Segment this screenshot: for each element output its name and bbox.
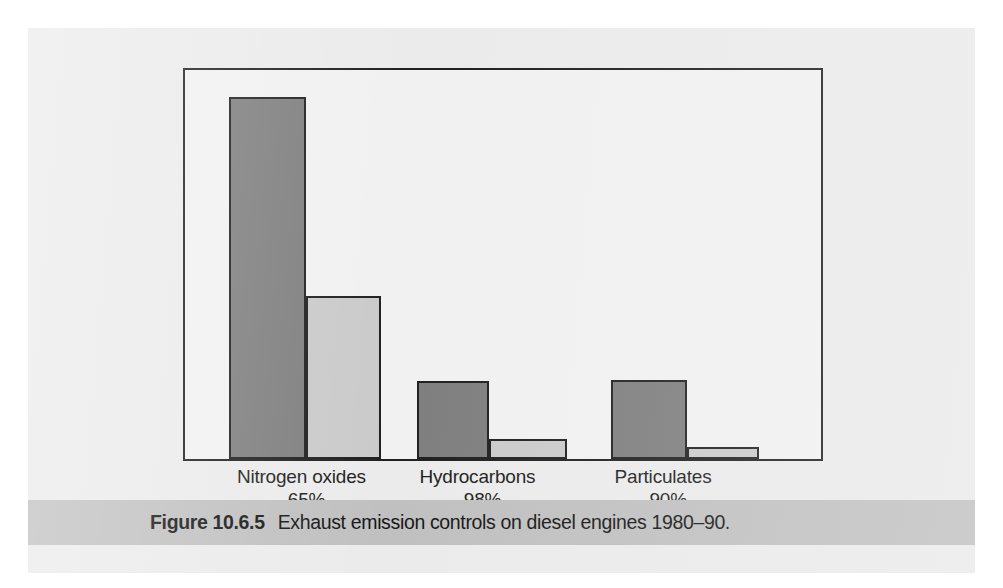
bar-hydrocarbons-1980 (417, 381, 489, 459)
bar-hydrocarbons-1990 (489, 439, 567, 459)
figure-caption: Figure 10.6.5Exhaust emission controls o… (150, 511, 730, 534)
bar-nitrogen-oxides-1980 (229, 97, 307, 459)
figure-caption-band: Figure 10.6.5Exhaust emission controls o… (28, 500, 975, 545)
bar-chart-plot-area (183, 68, 823, 461)
figure-root: Nitrogen oxides–65%Hydrocarbons–98%Parti… (0, 0, 1003, 588)
bars-layer (185, 70, 821, 459)
figure-caption-text: Exhaust emission controls on diesel engi… (278, 511, 730, 533)
scanned-page-panel: Nitrogen oxides–65%Hydrocarbons–98%Parti… (28, 28, 975, 573)
category-name: Hydrocarbons (419, 466, 535, 487)
figure-number: Figure 10.6.5 (150, 511, 265, 533)
category-name: Particulates (615, 466, 712, 487)
bar-particulates-1980 (611, 380, 687, 459)
category-name: Nitrogen oxides (237, 466, 366, 487)
bar-particulates-1990 (687, 447, 759, 459)
bar-nitrogen-oxides-1990 (306, 296, 380, 459)
